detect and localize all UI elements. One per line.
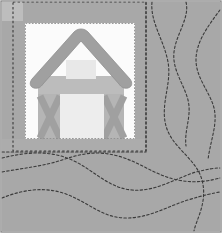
- quilt-artwork-svg: [0, 0, 222, 233]
- quilt-block-canvas: Barn Quilt Block Applique Gray quilt blo…: [0, 0, 222, 233]
- panel-shadow-band: [2, 139, 146, 152]
- loft-window: [66, 60, 96, 79]
- barn-door: [60, 94, 104, 139]
